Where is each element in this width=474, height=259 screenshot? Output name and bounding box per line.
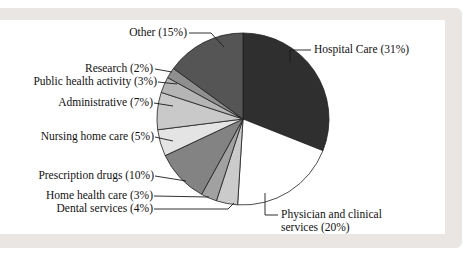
slice-label-hospital-care: Hospital Care (31%) <box>314 43 409 56</box>
slice-label-home-health-care: Home health care (3%) <box>46 189 153 202</box>
slice-label-prescription-drugs: Prescription drugs (10%) <box>38 169 154 182</box>
slice-label-dental-services: Dental services (4%) <box>57 202 153 215</box>
slice-label-other: Other (15%) <box>129 26 187 39</box>
leader-line-research <box>155 69 172 72</box>
figure-canvas: Hospital Care (31%) Physician and clinic… <box>0 0 474 259</box>
slice-label-administrative: Administrative (7%) <box>58 96 153 109</box>
slice-label-research: Research (2%) <box>85 62 153 75</box>
slice-label-nursing-home-care: Nursing home care (5%) <box>41 130 154 143</box>
slice-label-public-health-activity: Public health activity (3%) <box>33 75 157 88</box>
leader-line-home-health-care <box>154 196 209 197</box>
leader-line-dental-services <box>154 203 234 209</box>
slice-label-physician-clinical-services: Physician and clinical services (20%) <box>281 208 389 234</box>
